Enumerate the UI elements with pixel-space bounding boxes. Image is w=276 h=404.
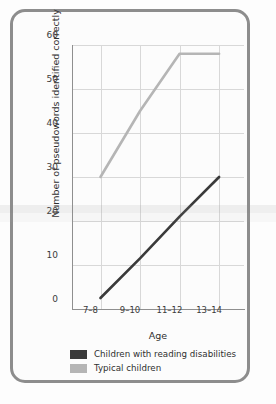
x-tick-label: 13–14 (196, 305, 222, 315)
figure-frame: Number of pseudowords identified correct… (10, 9, 250, 383)
series-line (100, 54, 219, 177)
legend-label: Typical children (94, 363, 161, 373)
x-axis-title: Age (72, 330, 244, 341)
legend-item: Children with reading disabilities (70, 349, 236, 359)
y-tick-label: 0 (38, 294, 58, 304)
chart-legend: Children with reading disabilitiesTypica… (70, 349, 236, 377)
y-axis-title: Number of pseudowords identified correct… (50, 9, 61, 219)
legend-item: Typical children (70, 363, 236, 373)
x-tick-label: 7–8 (83, 305, 98, 315)
legend-swatch (70, 350, 87, 359)
series-lines (72, 45, 244, 309)
series-line (100, 177, 219, 298)
plot-area (72, 45, 244, 309)
x-tick-label: 11–12 (157, 305, 183, 315)
x-tick-label: 9–10 (120, 305, 140, 315)
y-tick-label: 10 (38, 250, 58, 260)
legend-label: Children with reading disabilities (94, 349, 236, 359)
legend-swatch (70, 364, 87, 373)
